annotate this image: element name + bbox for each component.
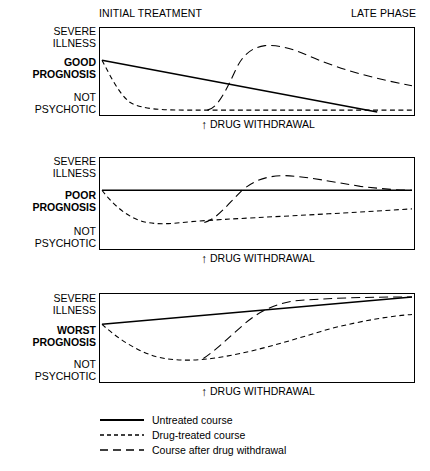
series-drug-treated-course bbox=[102, 190, 412, 223]
plot-svg bbox=[100, 28, 414, 115]
up-arrow-icon: ↑ bbox=[201, 386, 207, 398]
y-label-line-1: NOT bbox=[35, 359, 96, 371]
plot-svg bbox=[100, 158, 414, 249]
y-label-severe-illness: SEVERE ILLNESS bbox=[53, 293, 96, 316]
y-label-line-2: PSYCHOTIC bbox=[35, 104, 96, 116]
y-label-line-2: ILLNESS bbox=[53, 38, 96, 50]
legend: Untreated course Drug-treated course Cou… bbox=[99, 412, 419, 457]
y-label-line-2: ILLNESS bbox=[53, 305, 96, 317]
legend-label-after-withdrawal: Course after drug withdrawal bbox=[152, 444, 286, 456]
panel-worst-prognosis: SEVERE ILLNESS WORST PROGNOSIS NOT PSYCH… bbox=[0, 280, 430, 410]
legend-swatch-long-dash-line-icon bbox=[99, 444, 145, 455]
legend-swatch-solid-line-icon bbox=[99, 414, 145, 425]
panel-title-line-1: GOOD bbox=[32, 57, 96, 69]
plot-area-poor-prognosis bbox=[99, 157, 415, 250]
drug-withdrawal-label: DRUG WITHDRAWAL bbox=[210, 385, 315, 397]
y-label-severe-illness: SEVERE ILLNESS bbox=[53, 26, 96, 49]
plot-area-worst-prognosis bbox=[99, 293, 415, 383]
drug-withdrawal-label: DRUG WITHDRAWAL bbox=[210, 118, 315, 130]
legend-label-drug-treated: Drug-treated course bbox=[152, 429, 245, 441]
y-label-line-1: SEVERE bbox=[53, 156, 96, 168]
drug-withdrawal-marker: ↑DRUG WITHDRAWAL bbox=[201, 385, 315, 398]
series-course-after-withdrawal bbox=[207, 45, 412, 110]
header-late-phase: LATE PHASE bbox=[351, 7, 416, 19]
panel-title-good-prognosis: GOOD PROGNOSIS bbox=[32, 57, 96, 80]
panel-title-worst-prognosis: WORST PROGNOSIS bbox=[32, 325, 96, 348]
legend-item-after-withdrawal: Course after drug withdrawal bbox=[99, 442, 419, 457]
plot-area-good-prognosis bbox=[99, 27, 415, 116]
legend-item-drug-treated: Drug-treated course bbox=[99, 427, 419, 442]
series-drug-treated-course bbox=[102, 60, 412, 110]
y-label-line-1: SEVERE bbox=[53, 26, 96, 38]
series-untreated-course bbox=[102, 60, 377, 112]
panel-title-poor-prognosis: POOR PROGNOSIS bbox=[32, 190, 96, 213]
panel-title-line-1: WORST bbox=[32, 325, 96, 337]
panel-title-line-1: POOR bbox=[32, 190, 96, 202]
legend-swatch-short-dash-line-icon bbox=[99, 429, 145, 440]
drug-withdrawal-marker: ↑DRUG WITHDRAWAL bbox=[201, 252, 315, 265]
panel-title-line-2: PROGNOSIS bbox=[32, 69, 96, 81]
legend-item-untreated: Untreated course bbox=[99, 412, 419, 427]
panel-title-line-2: PROGNOSIS bbox=[32, 337, 96, 349]
y-label-not-psychotic: NOT PSYCHOTIC bbox=[35, 359, 96, 382]
legend-label-untreated: Untreated course bbox=[152, 414, 233, 426]
series-drug-treated-course bbox=[102, 315, 412, 361]
header-initial-treatment: INITIAL TREATMENT bbox=[99, 7, 202, 19]
y-label-line-1: SEVERE bbox=[53, 293, 96, 305]
y-label-line-2: PSYCHOTIC bbox=[35, 371, 96, 383]
drug-withdrawal-label: DRUG WITHDRAWAL bbox=[210, 252, 315, 264]
panel-poor-prognosis: SEVERE ILLNESS POOR PROGNOSIS NOT PSYCHO… bbox=[0, 140, 430, 280]
series-course-after-withdrawal bbox=[204, 176, 412, 223]
y-label-line-1: NOT bbox=[35, 226, 96, 238]
y-label-line-2: ILLNESS bbox=[53, 168, 96, 180]
panel-header: INITIAL TREATMENT LATE PHASE bbox=[99, 7, 416, 21]
up-arrow-icon: ↑ bbox=[201, 119, 207, 131]
plot-svg bbox=[100, 294, 414, 382]
panel-good-prognosis: INITIAL TREATMENT LATE PHASE SEVERE ILLN… bbox=[0, 0, 430, 140]
panel-title-line-2: PROGNOSIS bbox=[32, 202, 96, 214]
y-label-line-2: PSYCHOTIC bbox=[35, 238, 96, 250]
y-label-not-psychotic: NOT PSYCHOTIC bbox=[35, 226, 96, 249]
y-label-line-1: NOT bbox=[35, 92, 96, 104]
drug-withdrawal-marker: ↑DRUG WITHDRAWAL bbox=[201, 118, 315, 131]
prognosis-course-figure: INITIAL TREATMENT LATE PHASE SEVERE ILLN… bbox=[0, 0, 430, 471]
y-label-severe-illness: SEVERE ILLNESS bbox=[53, 156, 96, 179]
y-label-not-psychotic: NOT PSYCHOTIC bbox=[35, 92, 96, 115]
series-untreated-course bbox=[102, 297, 412, 324]
up-arrow-icon: ↑ bbox=[201, 253, 207, 265]
